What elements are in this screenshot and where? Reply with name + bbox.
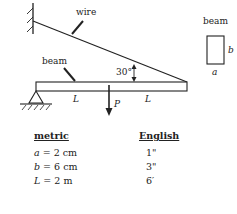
header-english: English	[139, 130, 179, 141]
metric-value: = 6 cm	[40, 161, 77, 172]
angle-double-arrow	[132, 64, 137, 82]
beam-label: beam	[42, 56, 67, 66]
pin-support	[20, 91, 52, 110]
beam-body	[36, 82, 187, 91]
angle-label: 30°	[116, 67, 132, 77]
english-value: 6′	[146, 175, 154, 186]
beam-pointer-arrow	[64, 68, 75, 81]
length-label-left: L	[72, 94, 79, 104]
load-label: P	[113, 99, 121, 109]
wall-support	[27, 3, 33, 34]
english-value: 1"	[146, 147, 156, 158]
metric-value: = 2 cm	[40, 147, 77, 158]
wire-line	[33, 21, 187, 82]
wire-label: wire	[76, 7, 96, 17]
table-row: a = 2 cm 1"	[28, 147, 188, 161]
cross-section-rect	[207, 36, 224, 64]
english-value: 3"	[146, 161, 156, 172]
metric-value: = 2 m	[40, 175, 72, 186]
table-row: L = 2 m 6′	[28, 175, 188, 189]
cross-section-width-label: a	[212, 67, 217, 77]
length-label-right: L	[144, 94, 151, 104]
wire-pointer-arrow	[72, 21, 83, 34]
table-row: b = 6 cm 3"	[28, 161, 188, 175]
header-metric: metric	[34, 130, 69, 141]
cross-section-height-label: b	[228, 45, 234, 55]
cross-section-title: beam	[203, 16, 228, 26]
